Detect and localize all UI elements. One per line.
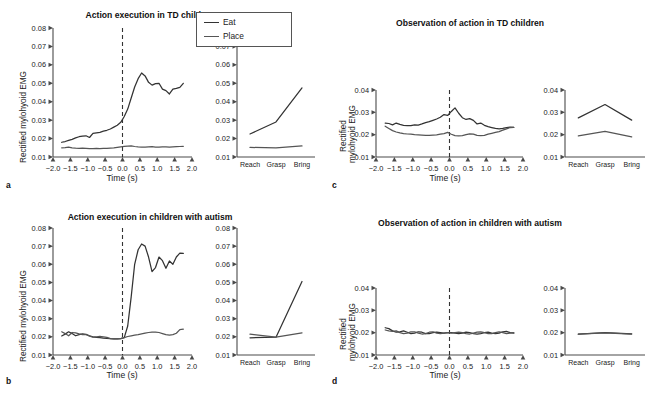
panel-b-cat-y-tick-label: 0.01: [216, 351, 230, 360]
panel-b-cat-category-label: Reach: [240, 359, 260, 366]
panel-b-cat-y-tick-label: 0.07: [216, 242, 230, 251]
panel-c-y-tick-label: 0.01: [355, 153, 369, 162]
panel-a-cat-category-label: Reach: [240, 161, 260, 168]
panel-d-cat-category-label: Reach: [568, 359, 588, 366]
panel-c-x-tick-label: 2.0: [518, 164, 528, 173]
panel-a-y-tick-label: 0.03: [32, 116, 46, 125]
panel-a-y-tick-label: 0.01: [32, 153, 46, 162]
panel-d-x-tick-label: 0.5: [463, 362, 473, 371]
panel-b-y-tick-label: 0.08: [32, 224, 46, 233]
panel-c-y-tick-label: 0.04: [355, 86, 369, 95]
panel-d-x-tick-label: −1.0: [405, 362, 420, 371]
panel-a-cat-y-tick-label: 0.06: [216, 60, 230, 69]
panel-c-cat-category-label: Reach: [568, 161, 588, 168]
panel-c-x-tick-label: −1.0: [405, 164, 420, 173]
panel-b-y-tick-label: 0.06: [32, 260, 46, 269]
panel-b-x-tick-label: 0.5: [135, 362, 145, 371]
panel-b-y-tick-label: 0.04: [32, 296, 46, 305]
panel-b-x-tick-label: 0.0: [117, 362, 127, 371]
panel-c-x-tick-label: −1.5: [387, 164, 402, 173]
panel-a-x-tick-label: 2.0: [187, 164, 197, 173]
panel-b: Action execution in children with autism…: [0, 200, 330, 399]
panel-c-x-tick-label: 0.5: [463, 164, 473, 173]
panel-b-y-tick-label: 0.03: [32, 314, 46, 323]
panel-a-y-tick-label: 0.05: [32, 79, 46, 88]
panel-a-y-tick-label: 0.08: [32, 24, 46, 33]
panel-b-cat-y-tick-label: 0.06: [216, 260, 230, 269]
panel-d-x-tick-label: 1.5: [499, 362, 509, 371]
panel-b-timeseries-plot: 0.080.070.060.050.040.030.020.01−2.0−1.5…: [0, 200, 330, 399]
panel-a-y-tick-label: 0.02: [32, 134, 46, 143]
panel-b-cat-category-label: Grasp: [266, 359, 285, 367]
panel-b-y-tick-label: 0.01: [32, 351, 46, 360]
panel-a-x-tick-label: −1.0: [80, 164, 95, 173]
panel-a-x-tick-label: 1.5: [169, 164, 179, 173]
panel-c-cat-category-label: Bring: [623, 161, 639, 169]
panel-d-cat-y-tick-label: 0.03: [544, 306, 558, 315]
panel-a-cat-y-tick-label: 0.05: [216, 79, 230, 88]
panel-c-cat-series-place: [578, 131, 631, 137]
panel-c-cat-series-eat: [578, 105, 631, 121]
panel-d-cat-category-label: Grasp: [595, 359, 614, 367]
panel-c-cat-y-tick-label: 0.01: [544, 153, 558, 162]
panel-b-y-tick-label: 0.02: [32, 332, 46, 341]
panel-a-x-tick-label: −2.0: [46, 164, 61, 173]
panel-b-cat-y-tick-label: 0.04: [216, 296, 230, 305]
panel-a-y-tick-label: 0.07: [32, 42, 46, 51]
panel-b-cat-category-label: Bring: [294, 359, 310, 367]
panel-c-y-tick-label: 0.03: [355, 108, 369, 117]
panel-d-timeseries-plot: 0.040.030.020.01−2.0−1.5−1.0−0.50.00.51.…: [330, 200, 653, 399]
panel-b-y-tick-label: 0.07: [32, 242, 46, 251]
panel-d-y-tick-label: 0.01: [355, 351, 369, 360]
panel-a-cat-y-tick-label: 0.03: [216, 116, 230, 125]
panel-d-x-tick-label: −1.5: [387, 362, 402, 371]
panel-c-x-tick-label: −2.0: [369, 164, 384, 173]
panel-a-cat-series-eat: [250, 88, 302, 134]
panel-a-x-tick-label: −0.5: [98, 164, 113, 173]
panel-a-cat-y-tick-label: 0.04: [216, 97, 230, 106]
legend-label-place: Place: [223, 31, 244, 41]
panel-c-y-tick-label: 0.02: [355, 130, 369, 139]
panel-d-cat-category-label: Bring: [623, 359, 639, 367]
panel-c-x-tick-label: 1.5: [499, 164, 509, 173]
panel-b-x-tick-label: 2.0: [187, 362, 197, 371]
panel-d-x-tick-label: −2.0: [369, 362, 384, 371]
panel-b-x-tick-label: −1.0: [80, 362, 95, 371]
figure-caption-cropped: [28, 395, 328, 399]
panel-d-x-tick-label: −0.5: [424, 362, 439, 371]
legend-item-place: Place: [204, 31, 244, 41]
panel-b-cat-y-tick-label: 0.03: [216, 314, 230, 323]
panel-b-x-tick-label: −1.5: [63, 362, 78, 371]
panel-c-x-tick-label: 0.0: [444, 164, 454, 173]
panel-c-timeseries-plot: 0.040.030.020.01−2.0−1.5−1.0−0.50.00.51.…: [330, 0, 653, 200]
legend-item-eat: Eat: [204, 17, 236, 27]
panel-d-cat-y-tick-label: 0.02: [544, 328, 558, 337]
panel-a-cat-category-label: Bring: [294, 161, 310, 169]
panel-d-y-tick-label: 0.03: [355, 306, 369, 315]
panel-c-x-tick-label: 1.0: [481, 164, 491, 173]
panel-d-y-tick-label: 0.04: [355, 284, 369, 293]
panel-b-x-tick-label: −0.5: [98, 362, 113, 371]
panel-a-cat-category-label: Grasp: [266, 161, 285, 169]
panel-a-cat-y-tick-label: 0.02: [216, 134, 230, 143]
panel-a-x-tick-label: 1.0: [152, 164, 162, 173]
panel-b-x-tick-label: −2.0: [46, 362, 61, 371]
panel-b-y-tick-label: 0.05: [32, 278, 46, 287]
panel-d-cat-series-place: [578, 333, 631, 334]
panel-a-x-tick-label: −1.5: [63, 164, 78, 173]
panel-b-x-tick-label: 1.5: [169, 362, 179, 371]
legend-label-eat: Eat: [223, 17, 236, 27]
panel-b-cat-y-tick-label: 0.05: [216, 278, 230, 287]
panel-a-y-tick-label: 0.06: [32, 60, 46, 69]
panel-a-cat-series-place: [250, 146, 302, 148]
panel-c-cat-y-tick-label: 0.03: [544, 108, 558, 117]
panel-d-x-tick-label: 2.0: [518, 362, 528, 371]
legend-line-eat-icon: [204, 22, 219, 23]
panel-c-x-tick-label: −0.5: [424, 164, 439, 173]
panel-a-x-tick-label: 0.5: [135, 164, 145, 173]
panel-d: Observation of action in children with a…: [330, 200, 653, 399]
panel-b-cat-series-eat: [250, 282, 302, 338]
panel-d-x-tick-label: 0.0: [444, 362, 454, 371]
panel-b-x-tick-label: 1.0: [152, 362, 162, 371]
legend-line-place-icon: [204, 36, 219, 37]
